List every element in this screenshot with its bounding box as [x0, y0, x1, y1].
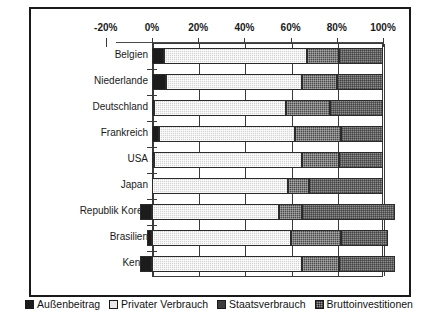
bar-row: [0, 74, 438, 90]
bar-segment-privater-verbrauch: [159, 126, 295, 142]
bar-segment-bruttoinvestitionen: [341, 126, 383, 142]
category-tick: [147, 199, 157, 200]
legend-item: Staatsverbrauch: [217, 298, 305, 310]
bar-row: [0, 100, 438, 116]
category-tick: [147, 95, 157, 96]
bar-segment-staatsverbrauch: [307, 48, 339, 64]
bar-row: [0, 230, 438, 246]
category-tick: [147, 147, 157, 148]
x-tick-label: 40%: [222, 22, 266, 33]
bar-segment-aussenbeitrag: [152, 126, 159, 142]
legend-swatch-icon: [315, 300, 324, 309]
legend-swatch-icon: [25, 300, 34, 309]
bar-segment-bruttoinvestitionen: [302, 204, 394, 220]
bar-row: [0, 256, 438, 272]
bar-segment-privater-verbrauch: [152, 204, 279, 220]
x-tick-label: 80%: [315, 22, 359, 33]
bar-segment-bruttoinvestitionen: [339, 152, 383, 168]
legend-item: Privater Verbrauch: [109, 298, 208, 310]
bar-segment-bruttoinvestitionen: [339, 256, 394, 272]
bar-segment-staatsverbrauch: [302, 74, 337, 90]
chart-legend: AußenbeitragPrivater VerbrauchStaatsverb…: [31, 295, 407, 313]
x-tick-label: -20%: [84, 22, 128, 33]
bar-segment-aussenbeitrag: [152, 74, 166, 90]
x-tick-label: 100%: [361, 22, 405, 33]
bar-row: [0, 204, 438, 220]
legend-label: Außenbeitrag: [37, 298, 100, 310]
bar-row: [0, 178, 438, 194]
bar-segment-privater-verbrauch: [154, 152, 302, 168]
legend-item: Bruttoinvestitionen: [315, 298, 413, 310]
legend-swatch-icon: [109, 300, 118, 309]
bar-segment-aussenbeitrag: [152, 48, 164, 64]
legend-item: Außenbeitrag: [25, 298, 100, 310]
bar-segment-privater-verbrauch: [152, 178, 288, 194]
legend-swatch-icon: [217, 300, 226, 309]
bar-segment-staatsverbrauch: [302, 152, 339, 168]
bar-segment-staatsverbrauch: [302, 256, 339, 272]
bar-segment-aussenbeitrag: [140, 204, 152, 220]
bar-segment-privater-verbrauch: [152, 256, 302, 272]
legend-label: Privater Verbrauch: [121, 298, 208, 310]
stacked-bar-chart: -20%0%20%40%60%80%100% BelgienNiederland…: [0, 0, 438, 327]
bar-segment-privater-verbrauch: [166, 74, 302, 90]
bar-segment-bruttoinvestitionen: [337, 74, 383, 90]
bar-layer: [0, 43, 438, 277]
category-tick: [147, 225, 157, 226]
bar-segment-staatsverbrauch: [279, 204, 302, 220]
category-tick: [147, 121, 157, 122]
bar-segment-privater-verbrauch: [152, 230, 291, 246]
x-tick-label: 0%: [130, 22, 174, 33]
legend-label: Bruttoinvestitionen: [327, 298, 413, 310]
bar-segment-privater-verbrauch: [164, 48, 307, 64]
legend-label: Staatsverbrauch: [229, 298, 305, 310]
category-tick: [147, 251, 157, 252]
category-tick: [147, 173, 157, 174]
bar-row: [0, 48, 438, 64]
bar-segment-aussenbeitrag: [140, 256, 152, 272]
bar-segment-staatsverbrauch: [288, 178, 309, 194]
bar-segment-bruttoinvestitionen: [330, 100, 383, 116]
bar-segment-privater-verbrauch: [154, 100, 286, 116]
bar-segment-staatsverbrauch: [291, 230, 342, 246]
category-tick: [147, 69, 157, 70]
bar-segment-staatsverbrauch: [295, 126, 341, 142]
bar-row: [0, 126, 438, 142]
bar-segment-bruttoinvestitionen: [309, 178, 383, 194]
bar-segment-bruttoinvestitionen: [339, 48, 383, 64]
bar-segment-staatsverbrauch: [286, 100, 330, 116]
x-tick-label: 20%: [176, 22, 220, 33]
bar-segment-bruttoinvestitionen: [341, 230, 387, 246]
bar-row: [0, 152, 438, 168]
x-tick-label: 60%: [269, 22, 313, 33]
